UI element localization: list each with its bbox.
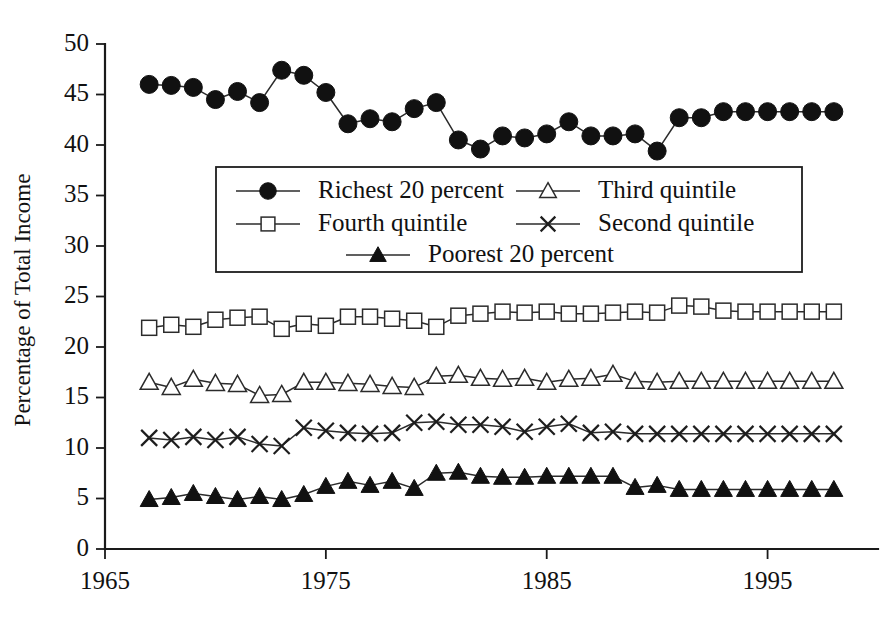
y-tick-label: 5 [77,483,90,510]
marker-filled-circle [648,142,666,160]
marker-open-square [261,217,275,231]
y-tick-label: 50 [64,29,89,56]
marker-filled-circle [471,140,489,158]
marker-filled-circle [692,109,710,127]
marker-filled-circle [516,129,534,147]
marker-open-square [473,306,488,321]
marker-open-square [318,318,333,333]
marker-open-square [716,303,731,318]
marker-filled-circle [582,127,600,145]
marker-filled-circle [229,82,247,100]
marker-open-square [164,317,179,332]
chart-background [0,0,889,621]
legend-label: Second quintile [598,209,754,236]
marker-open-square [142,320,157,335]
marker-filled-circle [560,113,578,131]
marker-filled-circle [405,100,423,118]
legend-label: Poorest 20 percent [428,240,614,267]
marker-open-square [605,305,620,320]
marker-filled-circle [383,113,401,131]
marker-filled-circle [273,61,291,79]
marker-open-square [363,309,378,324]
marker-open-square [340,309,355,324]
marker-filled-circle [260,183,277,200]
marker-open-square [628,304,643,319]
marker-open-square [650,305,665,320]
legend-label: Richest 20 percent [318,176,504,203]
marker-filled-circle [825,103,843,121]
chart-canvas: 05101520253035404550 1965197519851995 Pe… [0,0,889,621]
legend-label: Third quintile [598,176,736,203]
marker-filled-circle [361,110,379,128]
marker-filled-circle [140,75,158,93]
marker-filled-circle [781,103,799,121]
marker-filled-circle [162,76,180,94]
marker-open-square [738,304,753,319]
marker-open-square [429,319,444,334]
y-tick-label: 30 [64,231,89,258]
y-tick-label: 25 [64,281,89,308]
marker-open-square [186,319,201,334]
marker-filled-circle [494,127,512,145]
y-tick-label: 10 [64,433,89,460]
marker-open-square [230,310,245,325]
marker-open-square [451,308,466,323]
marker-open-square [252,309,267,324]
income-distribution-chart: 05101520253035404550 1965197519851995 Pe… [0,0,889,621]
marker-filled-circle [538,125,556,143]
x-tick-label: 1995 [743,567,793,594]
marker-open-square [517,305,532,320]
marker-open-square [539,304,554,319]
x-tick-label: 1965 [80,567,130,594]
marker-open-square [782,304,797,319]
marker-filled-circle [759,103,777,121]
marker-open-square [208,312,223,327]
marker-open-square [694,299,709,314]
marker-open-square [385,311,400,326]
marker-filled-circle [626,125,644,143]
marker-filled-circle [714,103,732,121]
marker-filled-circle [427,94,445,112]
marker-open-square [672,298,687,313]
marker-open-square [826,304,841,319]
marker-filled-circle [251,94,269,112]
marker-filled-circle [604,127,622,145]
marker-open-square [561,306,576,321]
marker-filled-circle [339,115,357,133]
marker-filled-circle [206,91,224,109]
marker-open-square [495,304,510,319]
marker-filled-circle [670,109,688,127]
y-axis-title: Percentage of Total Income [10,174,35,427]
x-tick-label: 1975 [301,567,351,594]
chart-legend: Richest 20 percentThird quintileFourth q… [216,167,802,272]
marker-open-square [407,313,422,328]
marker-filled-circle [317,83,335,101]
y-tick-label: 15 [64,382,89,409]
marker-open-square [760,304,775,319]
y-tick-label: 20 [64,332,89,359]
legend-label: Fourth quintile [318,209,467,236]
marker-filled-circle [803,103,821,121]
marker-filled-circle [449,131,467,149]
y-tick-label: 35 [64,180,89,207]
y-tick-label: 45 [64,79,89,106]
marker-filled-circle [184,78,202,96]
marker-open-square [274,321,289,336]
marker-open-square [296,316,311,331]
x-tick-label: 1985 [522,567,572,594]
marker-open-square [583,306,598,321]
marker-filled-circle [736,103,754,121]
marker-open-square [804,304,819,319]
marker-filled-circle [295,66,313,84]
y-tick-label: 40 [64,130,89,157]
y-tick-label: 0 [77,534,90,561]
